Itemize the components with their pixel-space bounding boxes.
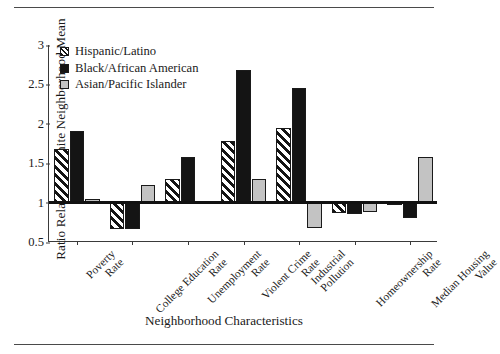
x-tick-mark	[355, 241, 356, 245]
legend: Hispanic/LatinoBlack/African AmericanAsi…	[60, 44, 198, 94]
x-tick-label: HomeownershipRate	[373, 247, 443, 317]
x-tick-mark	[299, 241, 300, 245]
x-tick-label: Median HousingValue	[429, 247, 500, 318]
x-tick-mark	[77, 241, 78, 245]
reference-line-ratio-1	[49, 201, 437, 203]
bar	[292, 88, 307, 202]
bottom-divider-rule	[14, 344, 434, 345]
bar	[141, 185, 156, 202]
x-axis-title: Neighborhood Characteristics	[0, 313, 448, 329]
legend-item: Asian/Pacific Islander	[60, 77, 198, 92]
y-tick-label: 2.5	[13, 77, 49, 92]
y-tick-label: 2	[13, 116, 49, 131]
bar	[418, 157, 433, 203]
gray-swatch	[60, 80, 69, 89]
bar	[125, 203, 140, 229]
bar	[221, 141, 236, 202]
bar-group	[271, 45, 327, 241]
bar	[165, 179, 180, 203]
x-tick-label: PovertyRate	[84, 247, 126, 289]
bar	[332, 203, 347, 213]
x-tick-mark	[410, 241, 411, 245]
black-swatch	[60, 64, 69, 73]
bar-group	[216, 45, 272, 241]
y-tick-label: 1	[13, 195, 49, 210]
bar	[403, 203, 418, 219]
legend-item-label: Black/African American	[75, 61, 198, 76]
x-tick-mark	[244, 241, 245, 245]
bar	[307, 203, 322, 228]
bar	[276, 128, 291, 203]
bar	[347, 203, 362, 215]
bar	[181, 157, 196, 203]
legend-item: Hispanic/Latino	[60, 44, 198, 59]
x-tick-mark	[132, 241, 133, 245]
bar	[252, 179, 267, 203]
y-tick-label: 3	[13, 38, 49, 53]
hatched-swatch	[60, 47, 69, 56]
legend-item: Black/African American	[60, 61, 198, 76]
bar	[363, 203, 378, 212]
x-tick-label: IndustrialPollution	[308, 247, 356, 295]
legend-item-label: Asian/Pacific Islander	[75, 77, 187, 92]
bar-group	[382, 45, 438, 241]
bar-group	[327, 45, 383, 241]
legend-item-label: Hispanic/Latino	[75, 44, 156, 59]
bar	[70, 131, 85, 203]
y-tick-label: 0.5	[13, 235, 49, 250]
y-tick-label: 1.5	[13, 156, 49, 171]
x-tick-mark	[188, 241, 189, 245]
bar	[54, 149, 69, 203]
bar	[236, 70, 251, 202]
top-divider-rule	[14, 7, 434, 8]
bar	[110, 203, 125, 229]
